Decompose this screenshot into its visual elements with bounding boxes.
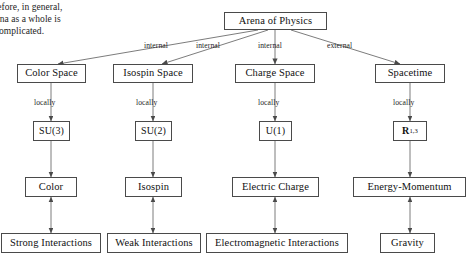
edge-label-internal-isospin: internal — [196, 41, 220, 50]
edge-label-internal-color: internal — [144, 41, 168, 50]
node-u1[interactable]: U(1) — [259, 121, 292, 141]
node-electric-charge[interactable]: Electric Charge — [232, 177, 319, 197]
edge-label-locally-1: locally — [34, 98, 55, 107]
node-isospin-label: Isospin — [138, 182, 169, 193]
node-arena-of-physics[interactable]: Arena of Physics — [224, 12, 327, 30]
edge-label-locally-4: locally — [393, 98, 414, 107]
node-arena-of-physics-label: Arena of Physics — [239, 16, 312, 27]
node-weak-interactions[interactable]: Weak Interactions — [107, 233, 201, 253]
edge-label-external-spacetime: external — [327, 41, 352, 50]
node-color[interactable]: Color — [25, 177, 77, 197]
edge-label-locally-2: locally — [136, 98, 157, 107]
node-strong-interactions[interactable]: Strong Interactions — [1, 233, 101, 253]
node-charge-space[interactable]: Charge Space — [235, 64, 315, 83]
node-weak-interactions-label: Weak Interactions — [115, 238, 193, 249]
node-u1-label: U(1) — [266, 126, 285, 136]
node-su3[interactable]: SU(3) — [33, 121, 70, 141]
node-electric-charge-label: Electric Charge — [242, 182, 309, 193]
node-gravity-label: Gravity — [391, 238, 424, 249]
node-gravity[interactable]: Gravity — [380, 233, 435, 253]
node-spacetime[interactable]: Spacetime — [375, 64, 445, 83]
node-charge-space-label: Charge Space — [245, 68, 304, 79]
edge-label-internal-charge: internal — [258, 41, 282, 50]
node-strong-interactions-label: Strong Interactions — [10, 238, 92, 249]
node-energy-momentum-label: Energy-Momentum — [367, 182, 451, 193]
node-color-space-label: Color Space — [25, 68, 78, 79]
node-su3-label: SU(3) — [39, 126, 64, 136]
node-isospin-space[interactable]: Isospin Space — [113, 64, 193, 83]
node-isospin-space-label: Isospin Space — [123, 68, 182, 79]
node-spacetime-label: Spacetime — [388, 68, 433, 79]
edge-label-locally-3: locally — [258, 98, 279, 107]
node-energy-momentum[interactable]: Energy-Momentum — [353, 177, 466, 197]
node-color-label: Color — [39, 182, 63, 193]
node-r13[interactable]: R1,3 — [393, 121, 427, 141]
node-su2-label: SU(2) — [141, 126, 166, 136]
node-electromagnetic-interactions[interactable]: Electromagnetic Interactions — [206, 233, 348, 253]
node-color-space[interactable]: Color Space — [17, 64, 86, 83]
node-isospin[interactable]: Isospin — [125, 177, 182, 197]
node-su2[interactable]: SU(2) — [135, 121, 172, 141]
node-r13-label: R — [402, 126, 409, 136]
node-electromagnetic-interactions-label: Electromagnetic Interactions — [215, 238, 339, 249]
